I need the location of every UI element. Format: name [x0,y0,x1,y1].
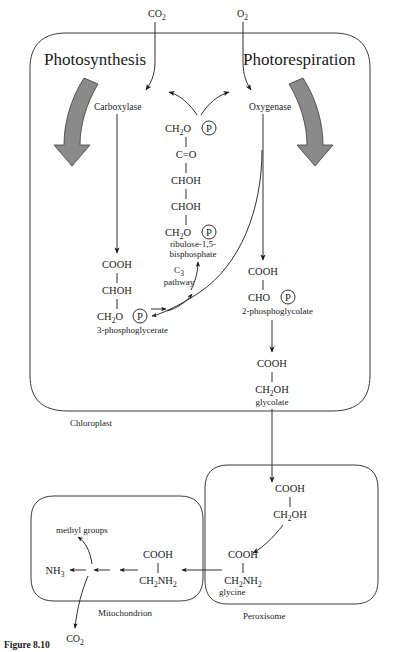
methyl-groups-arrow [78,537,92,564]
photosynthesis-title: Photosynthesis [44,50,146,69]
phosphoglycolate-structure: COOH CHO P 2-phosphoglycolate [242,266,313,316]
mitochondrion-label: Mitochondrion [98,608,152,618]
c3-pathway-line1: C3 [174,265,184,278]
rubp-to-oxygenase-arrow [201,92,229,115]
glycine-mito-line2: CH2NH2 [139,575,177,589]
glycolate-label: glycolate [256,397,289,407]
photosynthesis-flow-arrow [54,78,98,166]
rubp-line4: CHOH [171,201,201,212]
oxygenase-label: Oxygenase [249,102,291,112]
glycine-line1: COOH [228,549,258,560]
phosphoglycolate-phosphate: P [285,292,291,303]
ammonia-label: NH3 [46,565,65,579]
o2-top-label: O2 [237,8,248,22]
glycine-structure: COOH CH2NH2 glycine [219,549,262,597]
pga-line3: CH2O [97,311,123,325]
rubp-line2: C=O [176,149,197,160]
rubp-name-line2: bisphosphate [170,249,217,259]
methyl-groups-label: methyl groups [56,525,108,535]
rubp-line3: CHOH [171,175,201,186]
peroxisome-label: Peroxisome [243,611,286,621]
glycolate-perox-line1: COOH [275,483,305,494]
pga-line2: CHOH [102,285,132,296]
chloroplast-label: Chloroplast [70,418,112,428]
rubp-phosphate-2: P [206,227,212,238]
glycolate-perox-line2: CH2OH [273,509,307,523]
phosphoglycolate-label: 2-phosphoglycolate [242,306,313,316]
photorespiration-title: Photorespiration [243,50,356,69]
pga-label: 3-phosphoglycerate [97,325,168,335]
photosynthesis-photorespiration-diagram: Chloroplast CO2 O2 Photosynthesis Photor… [0,0,400,652]
phosphoglycolate-line2: CHO [248,292,271,303]
co2-top-label: CO2 [148,8,166,22]
co2-release-arrow [75,576,88,628]
co2-bottom-label: CO2 [66,633,84,647]
glycolate-structure: COOH CH2OH glycolate [255,358,289,407]
glycolate-line1: COOH [257,358,287,369]
figure-caption: Figure 8.10 [4,640,50,650]
c3-pathway-line2: pathway [164,277,195,287]
mitochondrion-membrane [31,496,203,601]
rubp-to-carboxylase-arrow [169,92,197,115]
glycine-mitochondrion-structure: COOH CH2NH2 [139,549,177,589]
carboxylase-label: Carboxylase [94,102,142,112]
rubp-line1: CH2O [165,123,191,137]
photorespiration-flow-arrow [289,78,333,166]
pga-line1: COOH [102,259,132,270]
glycine-label: glycine [219,587,246,597]
rubp-structure: CH2O P C=O CHOH CHOH CH2O P ribulose-1,5… [165,121,216,259]
rubp-name-line1: ribulose-1,5- [170,239,216,249]
glycolate-line2: CH2OH [255,384,289,398]
glycine-mito-line1: COOH [143,549,173,560]
co2-input-arrow [146,22,155,90]
pga-phosphate: P [137,311,143,322]
glycolate-peroxisome-structure: COOH CH2OH [273,483,307,523]
phosphoglycolate-line1: COOH [248,266,278,277]
pga-structure: COOH CHOH CH2O P 3-phosphoglycerate [97,259,168,335]
rubp-phosphate-1: P [206,123,212,134]
